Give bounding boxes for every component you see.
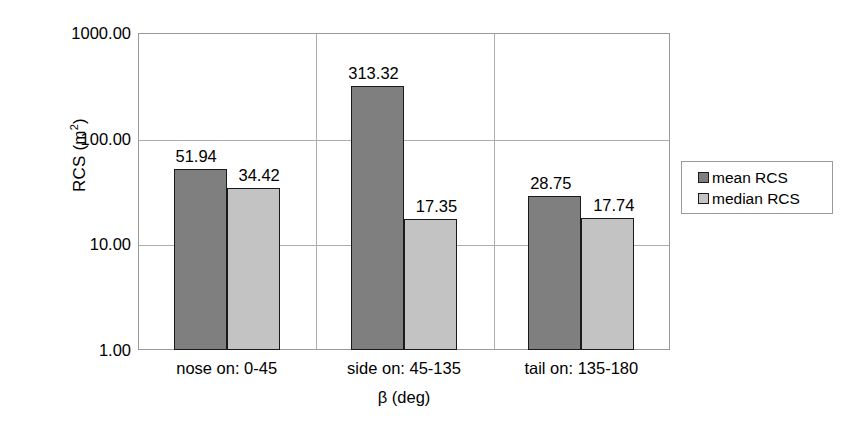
bar-value-label: 34.42 xyxy=(223,167,295,184)
gridline-vertical xyxy=(494,34,495,349)
bar-median xyxy=(581,218,634,350)
bar-median xyxy=(404,219,457,350)
y-axis-tick-labels: 1000.00100.0010.001.00 xyxy=(18,0,131,435)
y-axis-tick-label: 1000.00 xyxy=(21,25,131,41)
legend: mean RCS median RCS xyxy=(681,161,833,214)
bar-value-label: 17.74 xyxy=(578,197,650,214)
x-axis-tick-label: tail on: 135-180 xyxy=(493,358,670,378)
bar-median xyxy=(227,188,280,350)
rcs-bar-chart: RCS (m2) 1000.00100.0010.001.00 51.9434.… xyxy=(0,0,863,435)
x-axis-tick-label: side on: 45-135 xyxy=(315,358,492,378)
x-axis-title: β (deg) xyxy=(138,388,670,407)
bar-value-label: 17.35 xyxy=(401,198,473,215)
bar-mean xyxy=(174,169,227,350)
y-axis-tick-label: 10.00 xyxy=(21,236,131,252)
bar-mean xyxy=(528,196,581,350)
x-axis-tick-label: nose on: 0-45 xyxy=(138,358,315,378)
legend-label-median: median RCS xyxy=(712,190,800,208)
gridline-horizontal xyxy=(139,140,669,141)
legend-item-mean-rcs: mean RCS xyxy=(698,167,832,188)
bar-value-label: 28.75 xyxy=(515,175,587,192)
legend-item-median-rcs: median RCS xyxy=(698,188,832,209)
legend-swatch-median-icon xyxy=(698,193,709,204)
y-axis-tick-label: 100.00 xyxy=(21,131,131,147)
legend-swatch-mean-icon xyxy=(698,172,709,183)
bar-value-label: 51.94 xyxy=(160,148,232,165)
y-axis-tick-label: 1.00 xyxy=(21,342,131,358)
legend-label-mean: mean RCS xyxy=(712,169,788,187)
bar-mean xyxy=(351,86,404,350)
gridline-vertical xyxy=(316,34,317,349)
bar-value-label: 313.32 xyxy=(338,65,410,82)
